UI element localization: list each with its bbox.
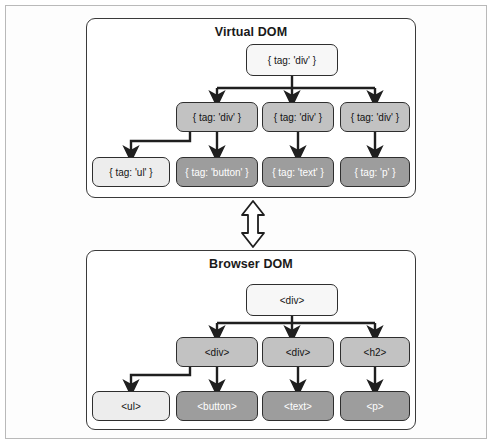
node-virtual-ul[interactable]: { tag: 'ul' } [92, 157, 170, 187]
diagram-figure: Virtual DOM { tag: 'div' } { t [0, 0, 496, 448]
node-browser-button[interactable]: <button> [176, 391, 258, 421]
node-virtual-div-1[interactable]: { tag: 'div' } [176, 102, 258, 132]
node-browser-text[interactable]: <text> [262, 391, 334, 421]
node-browser-p[interactable]: <p> [340, 391, 410, 421]
node-virtual-div-3[interactable]: { tag: 'div' } [340, 102, 410, 132]
panel-title-browser-dom: Browser DOM [87, 257, 415, 271]
node-browser-ul[interactable]: <ul> [92, 391, 170, 421]
node-browser-root[interactable]: <div> [246, 284, 338, 316]
panel-title-virtual-dom: Virtual DOM [87, 25, 415, 39]
node-browser-div-1[interactable]: <div> [176, 337, 258, 367]
node-browser-div-2[interactable]: <div> [262, 337, 334, 367]
node-virtual-p[interactable]: { tag: 'p' } [340, 157, 410, 187]
node-virtual-div-2[interactable]: { tag: 'div' } [262, 102, 334, 132]
bidirectional-sync-arrow [240, 200, 266, 248]
node-virtual-text[interactable]: { tag: 'text' } [262, 157, 334, 187]
node-virtual-button[interactable]: { tag: 'button' } [176, 157, 258, 187]
node-browser-h2[interactable]: <h2> [340, 337, 410, 367]
node-virtual-root[interactable]: { tag: 'div' } [246, 44, 338, 76]
